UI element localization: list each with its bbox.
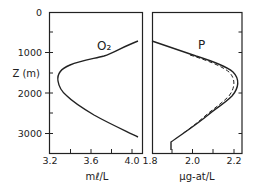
right-plot-frame [153,13,243,154]
left-panel-o2: 0 1000 2000 3000 Z (m) 3.2 3.6 4.0 mℓ/L … [12,7,142,182]
right-x-tick-label-1.8: 1.8 [142,155,157,166]
o2-profile-line [58,41,138,137]
left-x-tick-label-3.6: 3.6 [83,155,98,166]
y-tick-label-0: 0 [36,7,42,18]
chart-figure: 0 1000 2000 3000 Z (m) 3.2 3.6 4.0 mℓ/L … [0,0,256,190]
left-x-tick-label-4.0: 4.0 [124,155,139,166]
right-panel-p: 1.8 2.0 2.2 μg-at/L P [142,13,242,183]
y-tick-label-3000: 3000 [18,128,42,139]
y-axis-title: Z (m) [12,68,40,79]
right-x-tick-label-2.2: 2.2 [226,155,241,166]
left-x-axis-title: mℓ/L [86,171,109,182]
left-x-ticks [71,149,133,154]
right-x-axis-title: μg-at/L [179,171,215,182]
y-tick-label-1000: 1000 [18,47,42,58]
left-x-tick-label-3.2: 3.2 [42,155,57,166]
right-x-tick-label-2.0: 2.0 [185,155,200,166]
right-x-ticks [172,149,234,154]
p-curve-label: P [198,38,205,52]
p-observed-line [152,41,238,150]
o2-curve-label: O₂ [97,39,111,53]
y-tick-label-2000: 2000 [18,88,42,99]
